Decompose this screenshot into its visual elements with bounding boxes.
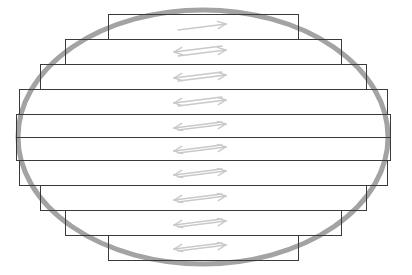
ellipse-rectangle-diagram: Ellipse approximated by inscribed horizo… — [0, 0, 412, 275]
diagram-canvas — [0, 0, 412, 275]
